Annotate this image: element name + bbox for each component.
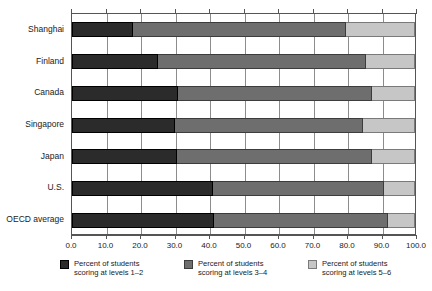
- category-label-oecd-average: OECD average: [6, 214, 64, 224]
- stacked-bar-chart: ShanghaiFinlandCanadaSingaporeJapanU.S.O…: [0, 0, 432, 291]
- category-label-u-s: U.S.: [47, 182, 64, 192]
- legend-swatch-light: [308, 260, 317, 269]
- axis-tick: [382, 235, 383, 239]
- x-tick-label: 100.0: [406, 241, 426, 250]
- category-label-shanghai: Shanghai: [28, 24, 64, 34]
- axis-tick: [278, 235, 279, 239]
- bar-segment: [372, 149, 415, 164]
- axis-tick: [209, 235, 210, 239]
- bar-rows: [72, 14, 415, 234]
- x-tick-label: 70.0: [305, 241, 321, 250]
- bar-segment: [175, 118, 363, 133]
- axis-tick: [244, 235, 245, 239]
- legend-label: Percent of studentsscoring at levels 1–2: [74, 259, 143, 278]
- bar-segment: [72, 86, 178, 101]
- bar-row: [72, 86, 415, 101]
- bar-row: [72, 54, 415, 69]
- bar-row: [72, 213, 415, 228]
- bar-segment: [213, 181, 384, 196]
- legend-label-line2: scoring at levels 5–6: [322, 268, 391, 277]
- category-axis-labels: ShanghaiFinlandCanadaSingaporeJapanU.S.O…: [0, 13, 68, 235]
- bar-segment: [178, 86, 372, 101]
- legend-swatch-mid: [184, 260, 193, 269]
- axis-tick: [416, 9, 417, 14]
- legend-swatch-dark: [60, 260, 69, 269]
- axis-tick: [313, 235, 314, 239]
- x-tick-label: 40.0: [201, 241, 217, 250]
- bar-row: [72, 149, 415, 164]
- category-label-finland: Finland: [36, 56, 64, 66]
- category-label-singapore: Singapore: [25, 119, 64, 129]
- legend-item: Percent of studentsscoring at levels 5–6: [308, 259, 432, 289]
- legend-label: Percent of studentsscoring at levels 3–4: [198, 259, 267, 278]
- bar-segment: [177, 149, 372, 164]
- plot-area: [71, 13, 416, 235]
- bar-segment: [72, 54, 158, 69]
- bar-segment: [72, 181, 213, 196]
- axis-tick: [140, 235, 141, 239]
- bar-segment: [72, 213, 214, 228]
- axis-tick: [347, 235, 348, 239]
- bar-segment: [214, 213, 388, 228]
- category-label-canada: Canada: [34, 87, 64, 97]
- x-axis: 0.010.020.030.040.050.060.070.080.090.01…: [71, 235, 416, 257]
- x-tick-label: 0.0: [65, 241, 76, 250]
- axis-tick: [416, 235, 417, 239]
- x-tick-label: 90.0: [374, 241, 390, 250]
- x-tick-label: 50.0: [236, 241, 252, 250]
- legend-item: Percent of studentsscoring at levels 3–4: [184, 259, 308, 289]
- bar-segment: [366, 54, 415, 69]
- legend-label-line1: Percent of students: [322, 259, 391, 268]
- legend-label-line2: scoring at levels 1–2: [74, 268, 143, 277]
- bar-segment: [372, 86, 415, 101]
- x-tick-label: 30.0: [167, 241, 183, 250]
- bar-segment: [133, 22, 347, 37]
- bar-row: [72, 181, 415, 196]
- bar-segment: [388, 213, 415, 228]
- legend-label-line1: Percent of students: [198, 259, 267, 268]
- x-tick-label: 80.0: [339, 241, 355, 250]
- bar-segment: [158, 54, 366, 69]
- axis-tick: [175, 235, 176, 239]
- x-tick-label: 60.0: [270, 241, 286, 250]
- bar-row: [72, 118, 415, 133]
- chart-legend: Percent of studentsscoring at levels 1–2…: [60, 259, 432, 289]
- legend-label-line2: scoring at levels 3–4: [198, 268, 267, 277]
- legend-label-line1: Percent of students: [74, 259, 143, 268]
- bar-segment: [346, 22, 415, 37]
- bar-segment: [72, 22, 133, 37]
- legend-item: Percent of studentsscoring at levels 1–2: [60, 259, 184, 289]
- bar-segment: [72, 149, 177, 164]
- x-tick-label: 20.0: [132, 241, 148, 250]
- bar-segment: [72, 118, 175, 133]
- x-tick-label: 10.0: [98, 241, 114, 250]
- category-label-japan: Japan: [41, 151, 64, 161]
- legend-label: Percent of studentsscoring at levels 5–6: [322, 259, 391, 278]
- axis-tick: [106, 235, 107, 239]
- bar-segment: [384, 181, 415, 196]
- bar-row: [72, 22, 415, 37]
- bar-segment: [363, 118, 415, 133]
- axis-tick: [71, 235, 72, 239]
